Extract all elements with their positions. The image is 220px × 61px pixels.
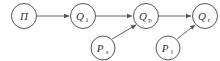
node-pl: P l [156,36,180,60]
node-qp-label: Q [139,10,147,22]
node-qr: Q r [193,4,218,29]
flow-diagram: Π Q 1 Q p Q r P s P l [0,0,220,61]
node-pi: Π [12,4,37,29]
node-ps-label: P [96,42,104,54]
node-q1-label: Q [76,10,84,22]
node-q1-subscript: 1 [85,16,89,24]
node-qp: Q p [134,4,159,29]
node-q1: Q 1 [71,4,96,29]
node-pl-subscript: l [171,48,173,56]
node-pi-label: Π [19,10,29,22]
edge-ps-to-qp [112,25,136,39]
node-qp-subscript: p [148,16,152,24]
node-ps: P s [91,36,115,60]
node-ps-subscript: s [106,48,109,56]
node-qr-label: Q [198,10,206,22]
node-pl-label: P [161,42,169,54]
edge-pl-to-qr [177,25,195,39]
